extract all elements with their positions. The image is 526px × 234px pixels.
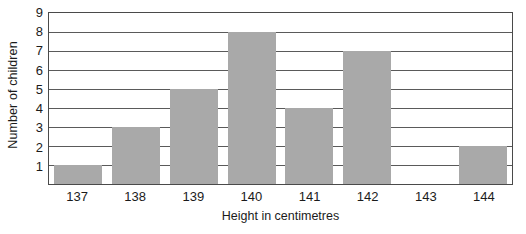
y-tick-label: 4 — [36, 102, 43, 115]
x-tick-label: 138 — [106, 189, 164, 204]
bar — [54, 165, 102, 184]
plot-area — [48, 12, 513, 185]
x-tick-label: 144 — [455, 189, 513, 204]
bar-column — [223, 13, 281, 184]
x-tick-label: 140 — [222, 189, 280, 204]
y-tick-label: 7 — [36, 44, 43, 57]
bar — [343, 51, 391, 184]
y-tick-label: 8 — [36, 25, 43, 38]
x-axis-tick-labels: 137138139140141142143144 — [48, 189, 513, 204]
y-axis-title: Number of children — [0, 0, 26, 190]
y-tick-label: 1 — [36, 159, 43, 172]
bar-column — [281, 13, 339, 184]
y-tick-label: 5 — [36, 82, 43, 95]
x-tick-label: 139 — [164, 189, 222, 204]
x-tick-label: 137 — [48, 189, 106, 204]
bar — [112, 127, 160, 184]
bar-series — [49, 13, 512, 184]
x-tick-label: 141 — [281, 189, 339, 204]
bar-column — [107, 13, 165, 184]
x-axis-title: Height in centimetres — [48, 209, 513, 223]
bar-column — [165, 13, 223, 184]
bar-column — [338, 13, 396, 184]
bar — [285, 108, 333, 184]
bar — [228, 32, 276, 184]
y-axis-tick-labels: 123456789 — [26, 12, 46, 185]
y-tick-label: 3 — [36, 121, 43, 134]
bar-column — [49, 13, 107, 184]
bar-column — [396, 13, 454, 184]
y-tick-label: 6 — [36, 63, 43, 76]
x-tick-label: 142 — [339, 189, 397, 204]
y-tick-label: 9 — [36, 6, 43, 19]
x-tick-label: 143 — [397, 189, 455, 204]
bar — [170, 89, 218, 184]
bar — [459, 146, 507, 184]
bar-column — [454, 13, 512, 184]
y-tick-label: 2 — [36, 140, 43, 153]
histogram-figure: Number of children 123456789 13713813914… — [0, 0, 526, 234]
y-axis-title-text: Number of children — [6, 41, 20, 148]
